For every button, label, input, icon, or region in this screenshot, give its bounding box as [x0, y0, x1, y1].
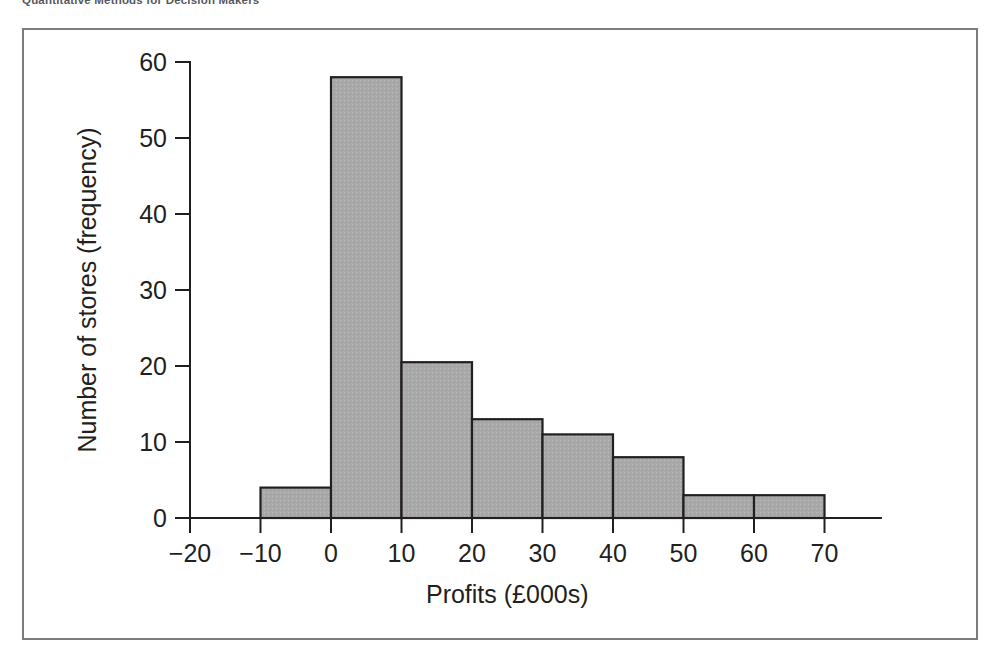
x-tick-label: 20 [458, 539, 486, 567]
histogram-bar [261, 488, 332, 518]
y-tick-label: 0 [153, 504, 167, 532]
x-tick-label: 50 [670, 539, 698, 567]
y-tick-label: 40 [139, 200, 167, 228]
histogram-bar [613, 457, 684, 518]
x-tick-label: 70 [811, 539, 839, 567]
bars-group [261, 77, 825, 518]
histogram-chart: 0102030405060−20−10010203040506070Profit… [0, 0, 1005, 668]
histogram-bar [402, 362, 473, 518]
x-tick-label: −20 [169, 539, 211, 567]
y-tick-label: 20 [139, 352, 167, 380]
x-tick-label: 0 [324, 539, 338, 567]
x-tick-label: 60 [740, 539, 768, 567]
histogram-bar [472, 419, 543, 518]
y-tick-label: 30 [139, 276, 167, 304]
y-tick-label: 50 [139, 124, 167, 152]
x-axis-ticks: −20−10010203040506070 [169, 518, 839, 567]
x-tick-label: −10 [239, 539, 281, 567]
x-tick-label: 10 [388, 539, 416, 567]
y-tick-label: 10 [139, 428, 167, 456]
histogram-bar [684, 495, 755, 518]
histogram-bar [331, 77, 402, 518]
x-tick-label: 30 [529, 539, 557, 567]
x-axis-title: Profits (£000s) [426, 580, 589, 608]
chart-canvas: 0102030405060−20−10010203040506070Profit… [0, 0, 1005, 668]
y-tick-label: 60 [139, 48, 167, 76]
y-axis-ticks: 0102030405060 [139, 48, 190, 532]
histogram-bar [754, 495, 825, 518]
x-tick-label: 40 [599, 539, 627, 567]
histogram-bar [543, 434, 614, 518]
y-axis-title: Number of stores (frequency) [73, 127, 101, 452]
